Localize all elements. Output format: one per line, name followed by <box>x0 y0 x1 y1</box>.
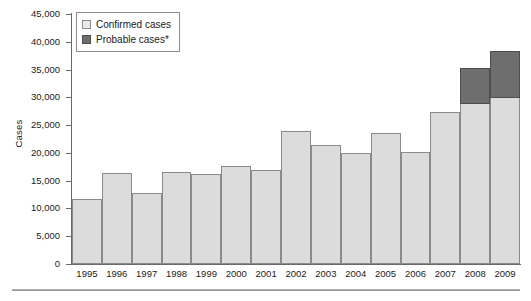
y-axis-tick-mark <box>66 97 72 98</box>
x-axis-tick-label: 2005 <box>371 268 401 279</box>
x-axis-tick-label: 1998 <box>162 268 192 279</box>
y-axis-tick-mark <box>66 236 72 237</box>
x-axis-tick-label: 2008 <box>460 268 490 279</box>
x-axis-tick-label: 1999 <box>191 268 221 279</box>
y-axis-tick-mark <box>66 153 72 154</box>
y-axis-tick-mark <box>66 208 72 209</box>
y-axis-tick-mark <box>66 264 72 265</box>
y-axis-tick-mark <box>66 42 72 43</box>
x-axis-tick-label: 1997 <box>132 268 162 279</box>
legend-label-probable: Probable cases* <box>96 34 169 45</box>
legend-item-confirmed: Confirmed cases <box>82 17 171 31</box>
y-axis-tick-mark <box>66 125 72 126</box>
x-axis-tick-label: 2009 <box>490 268 520 279</box>
y-axis-tick-mark <box>66 70 72 71</box>
x-axis-tick-label: 2003 <box>311 268 341 279</box>
y-axis-tick-mark <box>66 181 72 182</box>
x-axis-tick-label: 2004 <box>341 268 371 279</box>
y-axis-tick-mark <box>66 14 72 15</box>
footer-divider <box>12 289 520 291</box>
x-axis-tick-label: 2002 <box>281 268 311 279</box>
legend-item-probable: Probable cases* <box>82 32 171 46</box>
x-axis-tick-label: 2006 <box>401 268 431 279</box>
x-axis-tick-label: 1995 <box>72 268 102 279</box>
x-axis-tick-label: 2001 <box>251 268 281 279</box>
chart-legend: Confirmed cases Probable cases* <box>76 12 180 52</box>
legend-label-confirmed: Confirmed cases <box>96 19 171 30</box>
chart-figure: 05,00010,00015,00020,00025,00030,00035,0… <box>0 0 531 301</box>
x-axis-tick-label: 1996 <box>102 268 132 279</box>
legend-swatch-probable-icon <box>82 35 91 44</box>
x-axis-tick-label: 2007 <box>430 268 460 279</box>
x-axis-tick-label: 2000 <box>221 268 251 279</box>
legend-swatch-confirmed-icon <box>82 20 91 29</box>
